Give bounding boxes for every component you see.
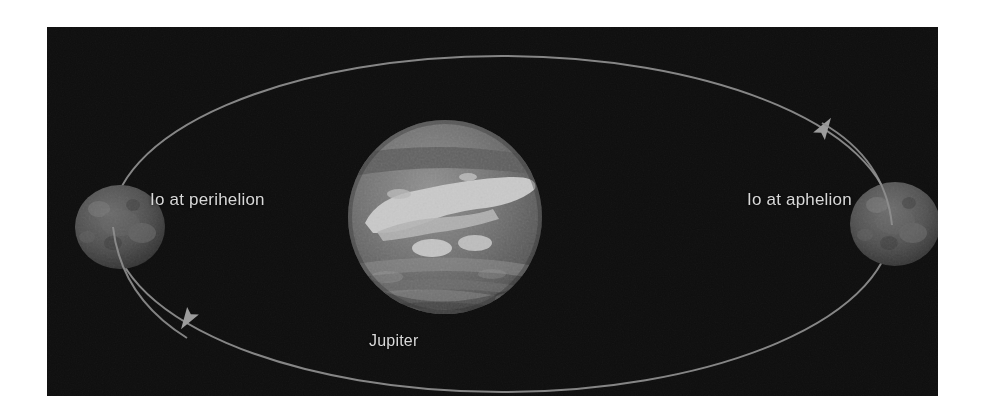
label-io-aphelion: Io at aphelion (747, 190, 852, 210)
io-aphelion-body (842, 175, 938, 275)
orbit-arrow-lower-left (175, 307, 199, 333)
jupiter-body (342, 112, 552, 338)
space-panel: Io at perihelion Io at aphelion Jupiter (47, 27, 938, 396)
figure-root: Io at perihelion Io at aphelion Jupiter (0, 0, 984, 418)
label-jupiter: Jupiter (369, 332, 418, 350)
orbit-scene (47, 27, 938, 396)
label-io-perihelion: Io at perihelion (150, 190, 265, 210)
